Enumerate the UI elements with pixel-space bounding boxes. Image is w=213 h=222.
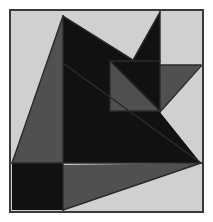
tangram-figure-container — [0, 0, 213, 222]
tangram-canvas — [0, 0, 213, 222]
top-right-light-square — [160, 12, 201, 65]
bottom-left-dark-square — [12, 163, 63, 210]
